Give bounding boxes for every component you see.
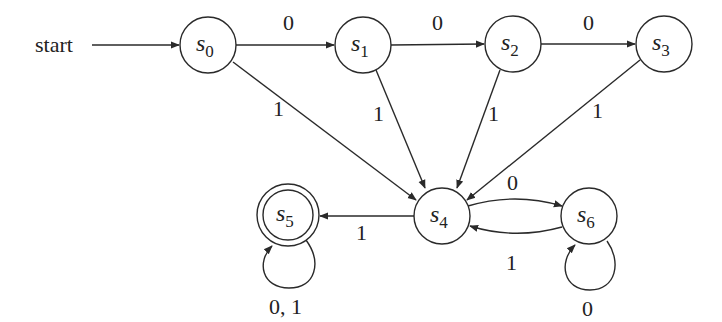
transition-s0-s4: 1	[233, 62, 416, 200]
transition-label: 0	[507, 170, 518, 195]
transition-s1-s2: 0	[391, 10, 484, 45]
transition-label: 1	[592, 98, 603, 123]
arrow-s3-s4	[467, 60, 640, 200]
transition-label: 0, 1	[269, 294, 302, 319]
transition-s5-s5: 0, 1	[263, 240, 315, 319]
transition-label: 1	[356, 220, 367, 245]
arrow-s4-s6	[468, 199, 562, 206]
transition-s3-s4: 1	[467, 60, 640, 200]
transition-s1-s4: 1	[373, 70, 425, 188]
start-label: start	[35, 32, 73, 57]
fsm-diagram: start 0 0 0 1 1 1 1 1 0 1	[0, 0, 722, 322]
transition-label: 0	[432, 10, 443, 35]
self-loop-s5	[263, 240, 315, 288]
state-s1: s1	[335, 17, 391, 73]
transition-label: 1	[273, 96, 284, 121]
transition-label: 0	[283, 10, 294, 35]
transition-s4-s5: 1	[320, 216, 414, 245]
arrow-s1-s4	[376, 70, 425, 188]
transition-label: 1	[488, 101, 499, 126]
transition-s6-s6: 0	[565, 241, 615, 321]
arrow-s1-s2	[391, 44, 484, 45]
transition-label: 1	[506, 250, 517, 275]
state-s6: s6	[561, 188, 617, 244]
start-indicator: start	[35, 32, 179, 57]
transition-s0-s1: 0	[236, 10, 334, 45]
state-s3: s3	[636, 16, 692, 72]
transition-label: 1	[373, 101, 384, 126]
arrow-s0-s4	[233, 62, 416, 200]
state-s5-accepting: s5	[257, 184, 319, 246]
state-s0: s0	[180, 17, 236, 73]
arrow-s2-s4	[457, 70, 500, 188]
transition-s2-s4: 1	[457, 70, 500, 188]
state-s4: s4	[414, 188, 470, 244]
state-s2: s2	[485, 16, 541, 72]
transition-label: 0	[583, 10, 594, 35]
transition-s6-s4: 1	[470, 226, 562, 275]
transition-s2-s3: 0	[541, 10, 635, 44]
arrow-s6-s4	[470, 226, 562, 233]
transition-label: 0	[582, 296, 593, 321]
self-loop-s6	[565, 241, 615, 290]
